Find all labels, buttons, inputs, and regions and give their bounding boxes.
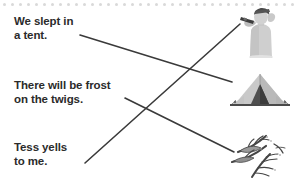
- perforation-dot: [107, 3, 110, 6]
- perforation-dot: [219, 3, 222, 6]
- line-twigs[interactable]: [125, 98, 234, 152]
- perforation-dot: [251, 3, 254, 6]
- tent-icon[interactable]: [230, 70, 290, 112]
- perforation-dot: [43, 3, 46, 6]
- perforation-dot: [267, 3, 270, 6]
- perforation-dot: [3, 3, 6, 6]
- perforation-dot: [227, 3, 230, 6]
- perforation-dot: [115, 3, 118, 6]
- perforation-dot: [99, 3, 102, 6]
- perforation-dot: [67, 3, 70, 6]
- perforation-dot: [35, 3, 38, 6]
- perforation-dot: [139, 3, 142, 6]
- perforation-dot: [75, 3, 78, 6]
- perforation-dot: [27, 3, 30, 6]
- perforation-dot: [187, 3, 190, 6]
- prompt-text-3: Tess yells to me.: [14, 140, 67, 168]
- perforation-dot: [171, 3, 174, 6]
- perforation-dot: [211, 3, 214, 6]
- perforation-dot: [11, 3, 14, 6]
- line-tent[interactable]: [80, 35, 232, 82]
- perforation-dot: [275, 3, 278, 6]
- perforation-dot: [235, 3, 238, 6]
- prompt-text-2: There will be frost on the twigs.: [14, 78, 111, 106]
- perforation-dot: [155, 3, 158, 6]
- perforation-dot: [259, 3, 262, 6]
- frosted-twigs-icon[interactable]: [230, 132, 290, 180]
- perforation-dot: [163, 3, 166, 6]
- perforation-dot: [291, 3, 294, 6]
- perforation-dot: [123, 3, 126, 6]
- prompt-text-1: We slept in a tent.: [14, 14, 73, 42]
- perforation-dot: [203, 3, 206, 6]
- perforation-dot: [243, 3, 246, 6]
- perforation-dot: [91, 3, 94, 6]
- perforation-dot: [147, 3, 150, 6]
- perforation-dot: [195, 3, 198, 6]
- perforation-dot: [283, 3, 286, 6]
- person-shouting-icon[interactable]: [238, 8, 284, 58]
- perforation-dot: [179, 3, 182, 6]
- perforation-dot: [131, 3, 134, 6]
- perforation-dot: [19, 3, 22, 6]
- perforation-dot: [59, 3, 62, 6]
- perforation-dot: [83, 3, 86, 6]
- perforation-dot: [51, 3, 54, 6]
- worksheet-page: We slept in a tent. There will be frost …: [0, 0, 296, 184]
